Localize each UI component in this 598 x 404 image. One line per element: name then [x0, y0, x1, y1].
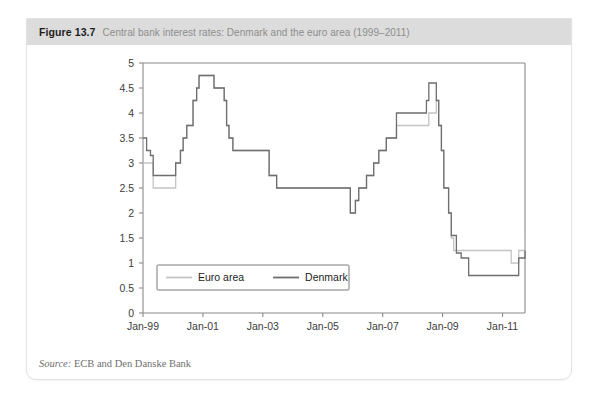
y-tick-label: 2.5 [119, 182, 134, 194]
figure-header-band: Figure 13.7 Central bank interest rates:… [27, 19, 571, 45]
y-tick-label: 3.5 [119, 132, 134, 144]
legend-label-denmark: Denmark [305, 271, 348, 283]
source-label: Source: [39, 358, 71, 369]
x-tick-label: Jan-99 [127, 320, 159, 332]
chart-legend: Euro areaDenmark [157, 265, 349, 290]
y-tick-label: 4.5 [119, 82, 134, 94]
figure-title: Central bank interest rates: Denmark and… [103, 27, 410, 38]
chart-series-group [143, 76, 525, 276]
y-tick-label: 0.5 [119, 282, 134, 294]
x-tick-label: Jan-09 [427, 320, 459, 332]
source-note: Source: ECB and Den Danske Bank [39, 358, 191, 369]
x-tick-label: Jan-03 [247, 320, 279, 332]
y-axis-tick-labels: 00.511.522.533.544.55 [119, 57, 143, 319]
x-tick-label: Jan-05 [307, 320, 339, 332]
series-line-euro-area [143, 76, 525, 264]
x-tick-label: Jan-11 [487, 320, 518, 332]
source-text: ECB and Den Danske Bank [71, 358, 191, 369]
y-tick-label: 5 [128, 57, 134, 69]
figure-container: Figure 13.7 Central bank interest rates:… [26, 18, 572, 380]
interest-rate-line-chart: 00.511.522.533.544.55 Jan-99Jan-01Jan-03… [27, 45, 573, 355]
x-tick-label: Jan-01 [187, 320, 219, 332]
figure-number: Figure 13.7 [39, 26, 96, 38]
y-tick-label: 3 [128, 157, 134, 169]
y-tick-label: 2 [128, 207, 134, 219]
x-axis-tick-labels: Jan-99Jan-01Jan-03Jan-05Jan-07Jan-09Jan-… [127, 313, 518, 332]
y-tick-label: 1 [128, 257, 134, 269]
y-tick-label: 0 [128, 307, 134, 319]
x-tick-label: Jan-07 [367, 320, 399, 332]
y-tick-label: 4 [128, 107, 134, 119]
chart-plot-area: 00.511.522.533.544.55 Jan-99Jan-01Jan-03… [27, 45, 571, 355]
series-line-denmark [143, 76, 525, 276]
y-tick-label: 1.5 [119, 232, 134, 244]
legend-label-euro-area: Euro area [198, 271, 244, 283]
